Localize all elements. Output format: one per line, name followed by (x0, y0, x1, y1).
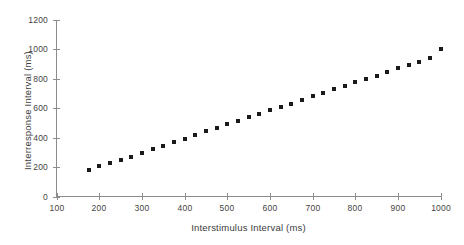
data-point (343, 84, 347, 88)
y-tick-mark (53, 79, 60, 80)
scatter-plot: 020040060080010001200 100200300400500600… (0, 0, 464, 245)
x-tick-label: 900 (381, 203, 415, 213)
data-point (247, 115, 251, 119)
y-tick-mark (53, 167, 60, 168)
data-point (129, 155, 133, 159)
x-tick-mark (355, 193, 356, 200)
y-tick-mark (53, 138, 60, 139)
x-tick-label: 100 (40, 203, 74, 213)
data-point (97, 164, 101, 168)
data-point (140, 151, 144, 155)
x-axis-title: Interstimulus Interval (ms) (56, 222, 441, 233)
x-tick-label: 300 (125, 203, 159, 213)
x-tick-mark (185, 193, 186, 200)
y-tick-label: 0 (16, 192, 48, 202)
x-tick-label: 800 (338, 203, 372, 213)
x-tick-label: 400 (168, 203, 202, 213)
data-point (321, 91, 325, 95)
y-tick-mark (53, 49, 60, 50)
x-tick-mark (142, 193, 143, 200)
x-tick-label: 500 (210, 203, 244, 213)
data-point (87, 168, 91, 172)
y-tick-mark (53, 108, 60, 109)
data-point (161, 144, 165, 148)
x-tick-mark (398, 193, 399, 200)
data-point (407, 63, 411, 67)
data-point (108, 161, 112, 165)
data-point (236, 119, 240, 123)
data-point (375, 74, 379, 78)
data-point (385, 70, 389, 74)
data-point (332, 87, 336, 91)
data-point (183, 137, 187, 141)
x-tick-mark (441, 193, 442, 200)
data-point (151, 147, 155, 151)
x-tick-mark (57, 193, 58, 200)
data-point (119, 158, 123, 162)
data-point (279, 105, 283, 109)
x-tick-label: 200 (82, 203, 116, 213)
data-point (428, 56, 432, 60)
data-point (300, 98, 304, 102)
x-tick-label: 600 (253, 203, 287, 213)
x-tick-label: 700 (296, 203, 330, 213)
y-tick-label: 1200 (16, 15, 48, 25)
data-point (204, 129, 208, 133)
data-point (311, 94, 315, 98)
x-axis-line (56, 196, 441, 197)
data-point (353, 80, 357, 84)
data-point (257, 112, 261, 116)
data-point (439, 47, 443, 51)
y-tick-mark (53, 20, 60, 21)
data-point (172, 140, 176, 144)
data-point (215, 126, 219, 130)
data-point (396, 66, 400, 70)
data-point (289, 102, 293, 106)
chart-screenshot: 020040060080010001200 100200300400500600… (0, 0, 464, 245)
x-tick-mark (227, 193, 228, 200)
y-axis-title: Interresponse Interval (ms) (22, 31, 33, 191)
data-point (417, 60, 421, 64)
x-tick-label: 1000 (424, 203, 458, 213)
data-point (225, 122, 229, 126)
data-point (193, 133, 197, 137)
x-tick-mark (270, 193, 271, 200)
data-point (364, 77, 368, 81)
x-tick-mark (99, 193, 100, 200)
data-point (268, 108, 272, 112)
x-tick-mark (313, 193, 314, 200)
